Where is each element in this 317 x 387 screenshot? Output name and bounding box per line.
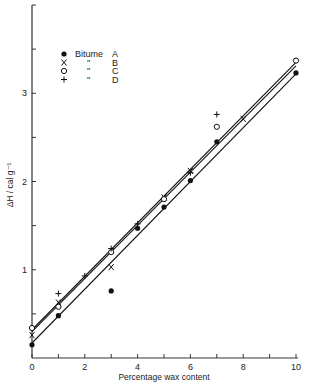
filled-circle-marker <box>56 313 61 318</box>
open-circle-marker <box>161 197 166 202</box>
legend: BitumeA"B"C"D <box>61 49 119 85</box>
y-tick-label: 2 <box>22 177 27 187</box>
open-circle-marker <box>214 124 219 129</box>
open-circle-marker <box>29 325 34 330</box>
open-circle-marker <box>56 304 61 309</box>
y-axis-title: ΔH / cal g⁻¹ <box>5 162 15 207</box>
y-tick-label: 3 <box>22 88 27 98</box>
axes: 0246810123 <box>22 5 301 372</box>
x-tick-label: 8 <box>241 362 246 372</box>
plus-marker <box>55 291 61 297</box>
x-marker <box>109 264 114 270</box>
open-circle-marker <box>293 58 298 63</box>
x-tick-label: 4 <box>135 362 140 372</box>
x-tick-label: 6 <box>188 362 193 372</box>
x-tick-label: 0 <box>29 362 34 372</box>
filled-circle-marker <box>29 342 34 347</box>
open-circle-marker <box>61 68 66 73</box>
plus-marker <box>214 111 220 117</box>
plus-marker <box>61 77 67 83</box>
fit-lines <box>32 62 296 343</box>
y-tick-label: 1 <box>22 265 27 275</box>
x-marker <box>62 60 67 66</box>
filled-circle-marker <box>109 288 114 293</box>
filled-circle-marker <box>188 178 193 183</box>
filled-circle-marker <box>161 204 166 209</box>
filled-circle-marker <box>61 51 66 56</box>
filled-circle-marker <box>293 70 298 75</box>
chart: 0246810123 BitumeA"B"C"D Percentage wax … <box>0 0 317 387</box>
x-tick-label: 10 <box>291 362 301 372</box>
legend-sample: D <box>112 75 119 85</box>
legend-ditto: " <box>87 75 90 85</box>
x-tick-label: 2 <box>82 362 87 372</box>
x-marker <box>241 116 246 122</box>
filled-circle-marker <box>214 139 219 144</box>
plus-marker <box>135 221 141 227</box>
x-axis-title: Percentage wax content <box>118 372 210 382</box>
